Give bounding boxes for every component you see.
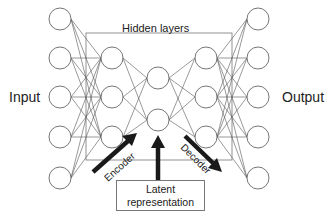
hidden1-node	[101, 47, 123, 69]
input-label: Input	[9, 89, 40, 105]
latent-label-line1: Latent	[117, 183, 204, 196]
input-node	[49, 86, 71, 108]
hidden1-node	[101, 126, 123, 148]
input-node	[49, 47, 71, 69]
hidden3-node	[195, 86, 217, 108]
output-node	[247, 86, 269, 108]
encoder-label: Encoder	[102, 150, 138, 184]
output-node	[247, 8, 269, 30]
latent-arrow	[151, 135, 165, 180]
hidden3-node	[195, 47, 217, 69]
hidden3-node	[195, 126, 217, 148]
output-node	[247, 47, 269, 69]
latent-label-line2: representation	[117, 196, 204, 209]
hidden-layers-label: Hidden layers	[122, 22, 189, 34]
hidden1-node	[101, 86, 123, 108]
output-label: Output	[282, 89, 324, 105]
connection-line	[123, 58, 147, 120]
input-node	[49, 126, 71, 148]
latent-node	[147, 109, 169, 131]
input-node	[49, 8, 71, 30]
output-node	[247, 167, 269, 189]
input-node	[49, 167, 71, 189]
latent-node	[147, 67, 169, 89]
latent-representation-box: Latent representation	[116, 180, 205, 211]
connection-line	[169, 97, 195, 120]
output-node	[247, 126, 269, 148]
connection-line	[123, 97, 147, 120]
connection-line	[169, 58, 195, 120]
